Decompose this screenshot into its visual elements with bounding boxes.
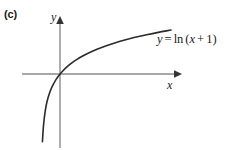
equation-close-paren: ): [212, 32, 216, 46]
equation-equals: =: [165, 32, 172, 46]
y-axis-arrowhead: [56, 16, 64, 24]
y-axis-label: y: [51, 11, 56, 23]
equation-function: ln: [174, 32, 184, 46]
function-graph-figure: (c) y x y=ln(x+1): [0, 0, 232, 150]
curve-group: [42, 30, 171, 142]
curve-equation-label: y=ln(x+1): [157, 32, 217, 46]
equation-lhs: y: [157, 32, 163, 46]
x-axis-label: x: [167, 79, 172, 91]
plot-canvas: [0, 0, 232, 150]
x-axis-arrowhead: [174, 70, 182, 78]
equation-argument-variable: x: [190, 32, 196, 46]
log-curve: [42, 30, 171, 142]
equation-plus: +: [197, 32, 204, 46]
